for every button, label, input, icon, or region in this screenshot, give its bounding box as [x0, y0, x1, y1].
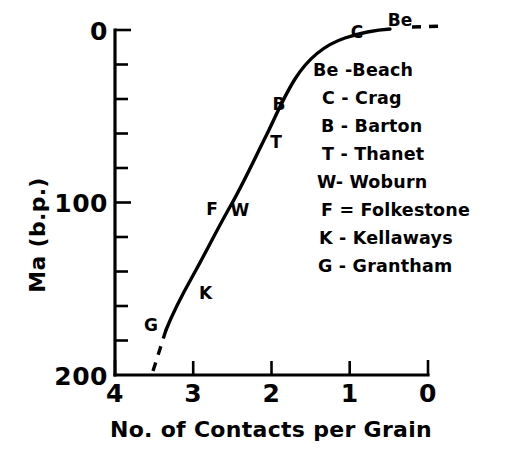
- legend-item-kellaways: K - Kellaways: [319, 228, 453, 248]
- point-label-K: K: [199, 283, 213, 303]
- x-axis-title: No. of Contacts per Grain: [110, 417, 432, 442]
- x-tick-labels: 4 3 2 1 0: [106, 379, 437, 408]
- curve-dashed-lower-extension: [153, 330, 166, 371]
- legend-item-beach: Be -Beach: [313, 60, 413, 80]
- point-label-C: C: [351, 22, 363, 42]
- point-label-Be: Be: [388, 10, 413, 30]
- legend-item-crag: C - Crag: [322, 88, 402, 108]
- y-tick-label-0: 0: [90, 17, 108, 46]
- point-label-B: B: [273, 94, 286, 114]
- legend-item-barton: B - Barton: [321, 116, 422, 136]
- point-label-T: T: [270, 132, 282, 152]
- point-label-F: F: [206, 199, 218, 219]
- curve-dashed-upper-extension: [412, 26, 446, 27]
- x-tick-label-3: 3: [184, 379, 202, 408]
- x-axis-ticks: [115, 360, 428, 375]
- legend: Be -Beach C - Crag B - Barton T - Thanet…: [313, 60, 470, 276]
- y-axis-ticks: [115, 30, 131, 341]
- y-tick-label-200: 200: [54, 362, 108, 391]
- legend-item-woburn: W- Woburn: [317, 172, 427, 192]
- line-chart: 0 100 200 4 3 2 1 0 No. of Contacts per …: [0, 0, 506, 473]
- x-tick-label-4: 4: [106, 379, 124, 408]
- legend-item-thanet: T - Thanet: [322, 144, 424, 164]
- point-label-G: G: [144, 315, 158, 335]
- legend-item-folkestone: F = Folkestone: [321, 200, 470, 220]
- point-label-W: W: [231, 200, 250, 220]
- x-tick-label-0: 0: [419, 379, 437, 408]
- x-tick-label-1: 1: [341, 379, 359, 408]
- x-tick-label-2: 2: [263, 379, 281, 408]
- legend-item-grantham: G - Grantham: [318, 256, 452, 276]
- y-tick-labels: 0 100 200: [54, 17, 108, 391]
- y-tick-label-100: 100: [54, 189, 108, 218]
- chart-figure: 0 100 200 4 3 2 1 0 No. of Contacts per …: [0, 0, 506, 473]
- y-axis-title: Ma (b.p.): [25, 177, 50, 292]
